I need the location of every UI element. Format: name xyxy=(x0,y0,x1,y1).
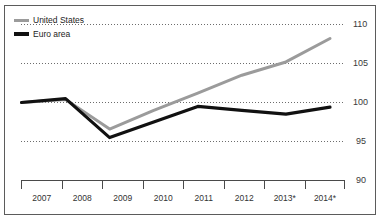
x-axis-label-2012: 2012 xyxy=(224,194,265,203)
x-axis-label-2013: 2013* xyxy=(265,194,306,203)
legend-item-united-states: United States xyxy=(14,14,84,26)
legend-label-euro-area: Euro area xyxy=(33,29,70,39)
chart-legend: United States Euro area xyxy=(14,14,84,42)
legend-label-united-states: United States xyxy=(33,15,84,25)
line-swatch-black-icon xyxy=(14,32,29,36)
gridlines xyxy=(21,25,345,142)
x-axis-label-2010: 2010 xyxy=(143,194,184,203)
y-axis-label-105: 105 xyxy=(353,59,368,68)
x-axis-label-2009: 2009 xyxy=(103,194,144,203)
chart-figure: United States Euro area 110 105 100 95 9… xyxy=(0,0,382,224)
x-axis-label-2008: 2008 xyxy=(62,194,103,203)
y-axis-label-90: 90 xyxy=(356,176,366,185)
line-swatch-gray-icon xyxy=(14,19,29,22)
x-axis-label-2007: 2007 xyxy=(22,194,63,203)
x-axis-label-2014: 2014* xyxy=(305,194,345,203)
series-line-euro-area xyxy=(22,99,331,138)
y-axis-label-100: 100 xyxy=(353,98,368,107)
legend-item-euro-area: Euro area xyxy=(14,28,84,40)
y-axis-label-95: 95 xyxy=(356,137,366,146)
y-axis-label-110: 110 xyxy=(353,20,367,29)
x-axis xyxy=(21,181,345,189)
x-axis-label-2011: 2011 xyxy=(184,194,225,203)
